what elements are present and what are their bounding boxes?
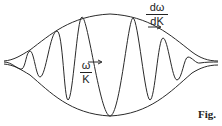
phase-velocity-denominator: K [82, 73, 89, 85]
phase-velocity-label: ω K [80, 60, 92, 85]
wave-packet-diagram [0, 0, 222, 126]
carrier-wave [4, 17, 218, 116]
group-velocity-denominator: dK [150, 15, 163, 27]
phase-velocity-numerator: ω [82, 59, 91, 71]
envelope-lower [4, 64, 218, 116]
figure-caption: Fig. [198, 108, 216, 120]
group-velocity-label: dω dK [146, 2, 168, 27]
group-velocity-numerator: dω [150, 1, 165, 13]
envelope-upper [4, 14, 218, 61]
